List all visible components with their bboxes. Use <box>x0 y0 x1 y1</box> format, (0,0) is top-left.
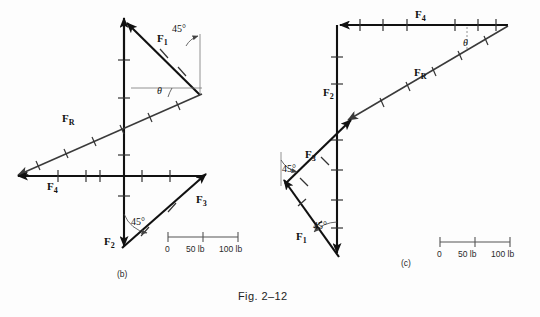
vector-label-F4-c: F4 <box>415 8 426 23</box>
panel-label-b: (b) <box>117 269 128 279</box>
angle-label-45-b: 45° <box>172 23 186 34</box>
scale-bar-b: 0 50 lb 100 lb <box>165 232 242 254</box>
vector-label-FR-c: FR <box>414 66 427 81</box>
scale-bar-c: 0 50 lb 100 lb <box>437 237 514 259</box>
angle-marker-45-lower-c: 45° <box>313 220 337 232</box>
scale-label-mid-c: 50 lb <box>458 249 477 259</box>
panel-b: 45° θ FR <box>18 18 242 279</box>
scale-label-zero-b: 0 <box>165 244 170 254</box>
force-polygon-figure: 45° θ FR <box>0 0 540 317</box>
angle-label-theta-c: θ <box>463 37 468 48</box>
vector-label-FR-b: FR <box>62 112 75 127</box>
vector-label-F1-b: F1 <box>157 32 168 47</box>
vector-label-F4-b: F4 <box>47 180 58 195</box>
scale-label-max-b: 100 lb <box>219 244 242 254</box>
vector-label-F2-b: F2 <box>104 235 115 250</box>
vector-F1-c: F1 <box>284 180 339 257</box>
figure-caption: Fig. 2–12 <box>238 290 287 302</box>
scale-label-mid-b: 50 lb <box>186 244 205 254</box>
angle-marker-theta-c: θ <box>463 27 468 50</box>
figure-page: 45° θ FR <box>0 0 540 317</box>
angle-label-45-lower-c: 45° <box>313 220 327 231</box>
angle-marker-45-b: 45° <box>172 23 200 95</box>
angle-label-45-lower-b: 45° <box>131 216 145 227</box>
vector-label-F3-b: F3 <box>196 193 207 208</box>
scale-label-zero-c: 0 <box>437 249 442 259</box>
vector-label-F2-c: F2 <box>323 86 334 101</box>
vector-F3-c: F3 <box>285 120 351 186</box>
panel-label-c: (c) <box>401 258 411 268</box>
vector-F2-c: F2 <box>323 25 343 253</box>
scale-label-max-c: 100 lb <box>491 249 514 259</box>
panel-c: F4 F2 FR <box>281 8 514 268</box>
vector-label-F1-c: F1 <box>296 230 307 245</box>
vector-FR-b: FR <box>18 94 202 175</box>
angle-label-theta-b: θ <box>157 85 162 96</box>
vector-F4-c: F4 <box>340 8 508 31</box>
vector-F4-b: F4 <box>18 170 204 195</box>
vector-FR-c: FR <box>348 26 508 120</box>
angle-label-45-upper-c: 45° <box>282 163 296 174</box>
